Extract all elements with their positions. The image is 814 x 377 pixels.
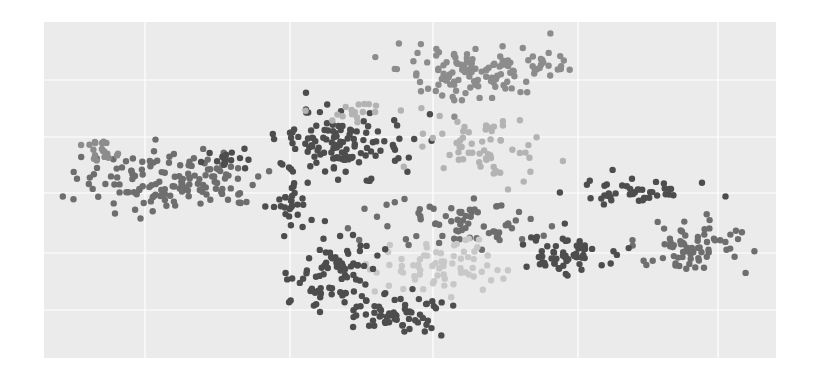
data-point xyxy=(339,123,345,129)
data-point xyxy=(281,233,287,239)
data-point xyxy=(310,135,316,141)
data-point xyxy=(598,195,604,201)
data-point xyxy=(505,186,511,192)
data-point xyxy=(572,253,578,259)
data-point xyxy=(528,216,534,222)
data-point xyxy=(688,256,694,262)
data-point xyxy=(451,97,457,103)
data-point xyxy=(288,135,294,141)
data-point xyxy=(492,84,498,90)
data-point xyxy=(610,248,616,254)
data-point xyxy=(555,66,561,72)
data-point xyxy=(262,203,268,209)
data-point xyxy=(490,62,496,68)
data-point xyxy=(186,193,192,199)
data-point xyxy=(119,164,125,170)
data-point xyxy=(655,219,661,225)
data-point xyxy=(366,323,372,329)
data-point xyxy=(410,262,416,268)
data-point xyxy=(494,267,500,273)
data-point xyxy=(435,82,441,88)
data-point xyxy=(237,155,243,161)
data-point xyxy=(448,205,454,211)
data-point xyxy=(439,299,445,305)
data-point xyxy=(356,237,362,243)
data-point xyxy=(470,265,476,271)
data-point xyxy=(78,142,84,148)
data-point xyxy=(454,61,460,67)
data-point xyxy=(302,141,308,147)
data-point xyxy=(539,248,545,254)
data-point xyxy=(235,191,241,197)
data-point xyxy=(341,299,347,305)
data-point xyxy=(345,251,351,257)
data-point xyxy=(330,128,336,134)
data-point xyxy=(449,69,455,75)
data-point xyxy=(443,213,449,219)
data-point xyxy=(742,270,748,276)
data-point xyxy=(462,237,468,243)
data-point xyxy=(90,147,96,153)
data-point xyxy=(502,85,508,91)
data-point xyxy=(213,186,219,192)
data-point xyxy=(472,46,478,52)
data-point xyxy=(386,262,392,268)
data-point xyxy=(313,274,319,280)
data-point xyxy=(398,256,404,262)
data-point xyxy=(578,267,584,273)
data-point xyxy=(130,155,136,161)
data-point xyxy=(398,107,404,113)
data-point xyxy=(499,62,505,68)
data-point xyxy=(704,239,710,245)
data-point xyxy=(341,157,347,163)
data-point xyxy=(396,136,402,142)
data-point xyxy=(387,242,393,248)
data-point xyxy=(579,254,585,260)
data-point xyxy=(727,245,733,251)
data-point xyxy=(235,165,241,171)
data-point xyxy=(276,196,282,202)
data-point xyxy=(299,224,305,230)
data-point xyxy=(331,164,337,170)
data-point xyxy=(682,248,688,254)
data-point xyxy=(406,316,412,322)
data-point xyxy=(203,191,209,197)
data-point xyxy=(480,287,486,293)
data-point xyxy=(451,82,457,88)
data-point xyxy=(375,128,381,134)
data-point xyxy=(115,150,121,156)
data-point xyxy=(300,202,306,208)
data-point xyxy=(177,162,183,168)
data-point xyxy=(706,217,712,223)
data-point xyxy=(417,256,423,262)
data-point xyxy=(466,129,472,135)
data-point xyxy=(329,255,335,261)
data-point xyxy=(435,67,441,73)
data-point xyxy=(150,208,156,214)
data-point xyxy=(704,211,710,217)
data-point xyxy=(496,229,502,235)
data-point xyxy=(491,123,497,129)
data-point xyxy=(363,243,369,249)
data-point xyxy=(401,196,407,202)
data-point xyxy=(222,160,228,166)
data-point xyxy=(504,79,510,85)
data-point xyxy=(520,241,526,247)
data-point xyxy=(370,139,376,145)
data-point xyxy=(334,111,340,117)
data-point xyxy=(243,199,249,205)
data-point xyxy=(551,250,557,256)
data-point xyxy=(479,68,485,74)
data-point xyxy=(394,317,400,323)
data-point xyxy=(363,130,369,136)
data-point xyxy=(361,206,367,212)
data-point xyxy=(654,192,660,198)
data-point xyxy=(171,198,177,204)
data-point xyxy=(413,233,419,239)
data-point xyxy=(351,136,357,142)
data-point xyxy=(453,140,459,146)
data-point xyxy=(294,201,300,207)
data-point xyxy=(266,168,272,174)
data-point xyxy=(523,264,529,270)
data-point xyxy=(420,131,426,137)
